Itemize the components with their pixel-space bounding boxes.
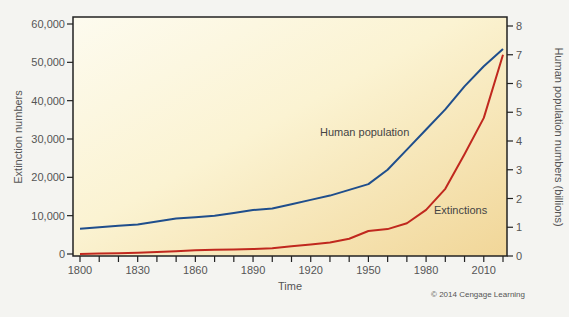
left-tick-label: 40,000 xyxy=(31,95,65,107)
right-axis-title: Human population numbers (billions) xyxy=(553,47,565,226)
x-tick-label: 1830 xyxy=(125,264,149,276)
left-tick-label: 20,000 xyxy=(31,171,65,183)
right-tick-label: 6 xyxy=(516,78,522,90)
left-axis-title: Extinction numbers xyxy=(12,90,24,184)
copyright-credit: © 2014 Cengage Learning xyxy=(431,290,525,299)
right-tick-label: 8 xyxy=(516,20,522,32)
x-tick-label: 1920 xyxy=(298,264,322,276)
left-tick-label: 0 xyxy=(59,248,65,260)
x-tick-label: 1860 xyxy=(183,264,207,276)
left-tick-label: 50,000 xyxy=(31,56,65,68)
left-tick-label: 10,000 xyxy=(31,210,65,222)
right-tick-label: 4 xyxy=(516,135,522,147)
right-tick-label: 3 xyxy=(516,164,522,176)
plot-area xyxy=(73,17,507,256)
x-axis-title: Time xyxy=(278,280,302,292)
left-tick-label: 30,000 xyxy=(31,133,65,145)
right-tick-label: 5 xyxy=(516,106,522,118)
x-tick-label: 1890 xyxy=(241,264,265,276)
right-tick-label: 7 xyxy=(516,49,522,61)
right-tick-label: 0 xyxy=(516,250,522,262)
x-tick-label: 2010 xyxy=(472,264,496,276)
x-tick-label: 1980 xyxy=(414,264,438,276)
population-label: Human population xyxy=(320,126,409,138)
chart: 010,00020,00030,00040,00050,00060,000 01… xyxy=(0,0,569,317)
extinctions-label: Extinctions xyxy=(434,204,488,216)
x-tick-label: 1950 xyxy=(356,264,380,276)
right-tick-label: 2 xyxy=(516,193,522,205)
right-y-axis: 012345678 xyxy=(507,20,522,262)
right-tick-label: 1 xyxy=(516,221,522,233)
x-axis: 18001830186018901920195019802010 xyxy=(68,256,503,276)
left-y-axis: 010,00020,00030,00040,00050,00060,000 xyxy=(31,18,73,260)
left-tick-label: 60,000 xyxy=(31,18,65,30)
x-tick-label: 1800 xyxy=(68,264,92,276)
